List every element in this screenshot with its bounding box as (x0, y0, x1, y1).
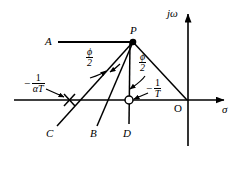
label-point-B: B (90, 128, 97, 139)
s-plane-diagram: P A C B D O jω σ ϕ 2 ϕ 2 − 1 αT − 1 T (0, 0, 243, 176)
zero-label-denominator: T (154, 88, 162, 99)
label-origin-O: O (174, 103, 182, 114)
label-left-half-phi: ϕ 2 (86, 47, 93, 68)
pole-label-leader-arrow (46, 89, 64, 97)
label-real-axis: σ (222, 104, 227, 115)
point-P-marker (130, 39, 137, 46)
label-imaginary-axis: jω (167, 8, 178, 19)
pole-label-fraction: 1 αT (32, 73, 45, 94)
right-angle-leader-arrow (130, 76, 145, 89)
label-right-half-phi: ϕ 2 (139, 52, 146, 73)
left-half-phi-denominator: 2 (86, 57, 93, 68)
line-P-to-B (97, 42, 133, 126)
label-zero-location: − 1 T (146, 78, 161, 99)
right-half-phi-denominator: 2 (139, 62, 146, 73)
zero-label-fraction: 1 T (154, 78, 162, 99)
line-P-to-C (57, 42, 133, 126)
zero-marker-o (125, 96, 133, 104)
pole-label-minus-sign: − (24, 78, 30, 89)
pole-label-numerator: 1 (35, 73, 42, 83)
label-point-P: P (130, 25, 137, 36)
label-point-C: C (46, 128, 53, 139)
label-pole-location: − 1 αT (24, 73, 45, 94)
label-point-D: D (123, 128, 131, 139)
pole-label-denominator: αT (32, 83, 45, 94)
left-half-phi-numerator: ϕ (86, 47, 93, 57)
zero-label-numerator: 1 (154, 78, 161, 88)
zero-label-minus-sign: − (146, 83, 152, 94)
right-half-phi-numerator: ϕ (139, 52, 146, 62)
left-half-phi-fraction: ϕ 2 (86, 47, 93, 68)
line-P-to-D (129, 42, 130, 124)
label-point-A: A (45, 36, 52, 47)
right-half-phi-fraction: ϕ 2 (139, 52, 146, 73)
